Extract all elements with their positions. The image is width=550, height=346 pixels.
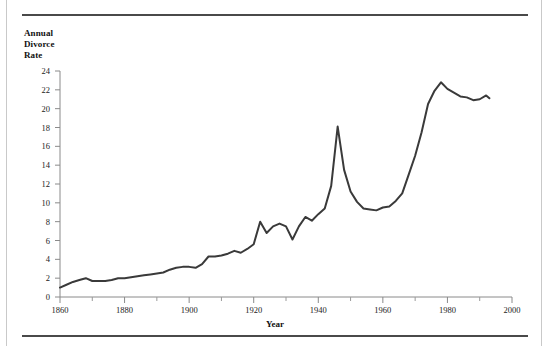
y-tick-label: 12 — [24, 179, 50, 189]
data-series-line — [60, 82, 489, 287]
y-tick-label: 0 — [24, 292, 50, 302]
x-tick-label: 1860 — [40, 305, 80, 315]
x-tick-label: 1900 — [169, 305, 209, 315]
chart-svg — [0, 0, 550, 346]
y-tick-label: 4 — [24, 254, 50, 264]
y-tick-label: 6 — [24, 236, 50, 246]
y-tick-label: 14 — [24, 160, 50, 170]
x-tick-label: 1880 — [105, 305, 145, 315]
y-tick-label: 10 — [24, 198, 50, 208]
y-tick-label: 20 — [24, 104, 50, 114]
y-tick-label: 2 — [24, 273, 50, 283]
x-tick-label: 1960 — [363, 305, 403, 315]
y-tick-label: 16 — [24, 141, 50, 151]
x-tick-label: 1940 — [298, 305, 338, 315]
x-tick-label: 1920 — [234, 305, 274, 315]
figure-page: Annual Divorce Rate Year 024681012141618… — [0, 0, 550, 346]
y-tick-label: 8 — [24, 217, 50, 227]
y-tick-label: 22 — [24, 85, 50, 95]
y-tick-label: 18 — [24, 123, 50, 133]
line-chart-plot: 0246810121416182022241860188019001920194… — [0, 0, 550, 346]
x-tick-label: 1980 — [427, 305, 467, 315]
x-tick-label: 2000 — [492, 305, 532, 315]
y-tick-label: 24 — [24, 66, 50, 76]
